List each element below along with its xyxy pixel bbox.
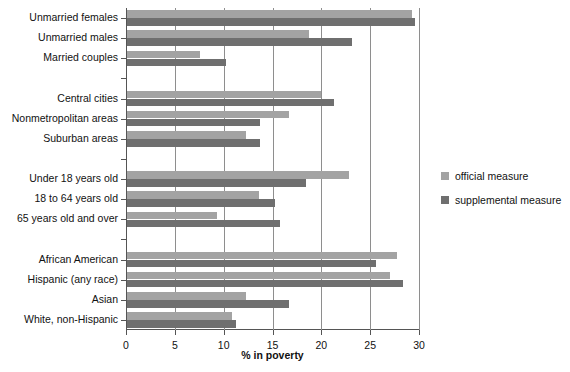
bar-official bbox=[127, 30, 309, 38]
legend-swatch-icon bbox=[441, 172, 449, 180]
bar-official bbox=[127, 252, 397, 260]
category-axis-labels: Unmarried femalesUnmarried malesMarried … bbox=[0, 0, 122, 330]
y-tick bbox=[121, 78, 126, 79]
y-tick bbox=[121, 219, 126, 220]
bar-official bbox=[127, 91, 321, 99]
category-label: 18 to 64 years old bbox=[35, 193, 118, 204]
category-label: Hispanic (any race) bbox=[28, 274, 118, 285]
legend-label: official measure bbox=[455, 170, 528, 182]
legend-item-supplemental[interactable]: supplemental measure bbox=[441, 194, 569, 206]
x-tick bbox=[224, 330, 225, 335]
category-label: Suburban areas bbox=[43, 133, 118, 144]
gridline bbox=[419, 8, 420, 330]
bar-supplemental bbox=[127, 220, 280, 228]
chart-legend: official measuresupplemental measure bbox=[441, 170, 569, 218]
bar-supplemental bbox=[127, 119, 260, 127]
x-tick bbox=[370, 330, 371, 335]
legend-swatch-icon bbox=[441, 196, 449, 204]
bar-supplemental bbox=[127, 38, 352, 46]
bar-supplemental bbox=[127, 260, 376, 268]
category-label: Unmarried males bbox=[38, 32, 118, 43]
bar-official bbox=[127, 272, 390, 280]
category-label: Asian bbox=[92, 294, 118, 305]
bar-supplemental bbox=[127, 179, 306, 187]
y-tick bbox=[121, 179, 126, 180]
bar-official bbox=[127, 312, 232, 320]
category-label: Central cities bbox=[57, 93, 118, 104]
bar-supplemental bbox=[127, 59, 226, 67]
bar-official bbox=[127, 292, 246, 300]
bar-official bbox=[127, 10, 412, 18]
y-tick bbox=[121, 119, 126, 120]
bar-official bbox=[127, 212, 217, 220]
category-label: Under 18 years old bbox=[29, 173, 118, 184]
bar-official bbox=[127, 111, 289, 119]
bar-official bbox=[127, 51, 200, 59]
bar-official bbox=[127, 171, 349, 179]
bar-official bbox=[127, 191, 259, 199]
category-label: Unmarried females bbox=[29, 12, 118, 23]
y-tick bbox=[121, 99, 126, 100]
bar-supplemental bbox=[127, 18, 415, 26]
y-tick bbox=[121, 260, 126, 261]
legend-label: supplemental measure bbox=[455, 194, 561, 206]
category-label: Married couples bbox=[43, 52, 118, 63]
y-tick bbox=[121, 18, 126, 19]
y-tick bbox=[121, 58, 126, 59]
x-tick bbox=[273, 330, 274, 335]
poverty-bar-chart: Unmarried femalesUnmarried malesMarried … bbox=[0, 0, 570, 372]
bar-official bbox=[127, 131, 246, 139]
bar-supplemental bbox=[127, 280, 403, 288]
category-label: African American bbox=[39, 254, 118, 265]
bar-supplemental bbox=[127, 139, 260, 147]
category-label: Nonmetropolitan areas bbox=[12, 113, 118, 124]
y-tick bbox=[121, 38, 126, 39]
bar-supplemental bbox=[127, 199, 275, 207]
y-tick bbox=[121, 239, 126, 240]
y-tick bbox=[121, 280, 126, 281]
x-tick bbox=[321, 330, 322, 335]
x-axis-title: % in poverty bbox=[126, 349, 419, 361]
y-tick bbox=[121, 300, 126, 301]
bar-supplemental bbox=[127, 99, 334, 107]
x-tick bbox=[175, 330, 176, 335]
y-tick bbox=[121, 159, 126, 160]
category-label: 65 years old and over bbox=[17, 213, 118, 224]
category-label: White, non-Hispanic bbox=[24, 314, 118, 325]
y-tick bbox=[121, 320, 126, 321]
bar-supplemental bbox=[127, 320, 236, 328]
y-tick bbox=[121, 199, 126, 200]
x-tick bbox=[126, 330, 127, 335]
y-tick bbox=[121, 139, 126, 140]
x-tick bbox=[419, 330, 420, 335]
bar-supplemental bbox=[127, 300, 289, 308]
legend-item-official[interactable]: official measure bbox=[441, 170, 569, 182]
plot-area: 051015202530 bbox=[126, 8, 419, 330]
